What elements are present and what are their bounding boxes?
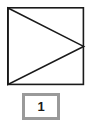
figure-label-box: 1 xyxy=(22,93,60,120)
figure-label-text: 1 xyxy=(37,100,44,113)
figure-area xyxy=(0,0,92,92)
outer-square-shape xyxy=(8,8,84,85)
diagram-root: 1 xyxy=(0,0,92,130)
square-with-triangle-figure xyxy=(0,0,92,92)
